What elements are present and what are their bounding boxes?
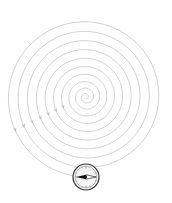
compass-icon (73, 164, 99, 190)
spiral-diagram (0, 0, 172, 203)
spiral-line (8, 22, 158, 177)
spiral-canvas (0, 0, 172, 203)
spiral-path (8, 22, 158, 177)
compass-pivot (85, 176, 87, 178)
